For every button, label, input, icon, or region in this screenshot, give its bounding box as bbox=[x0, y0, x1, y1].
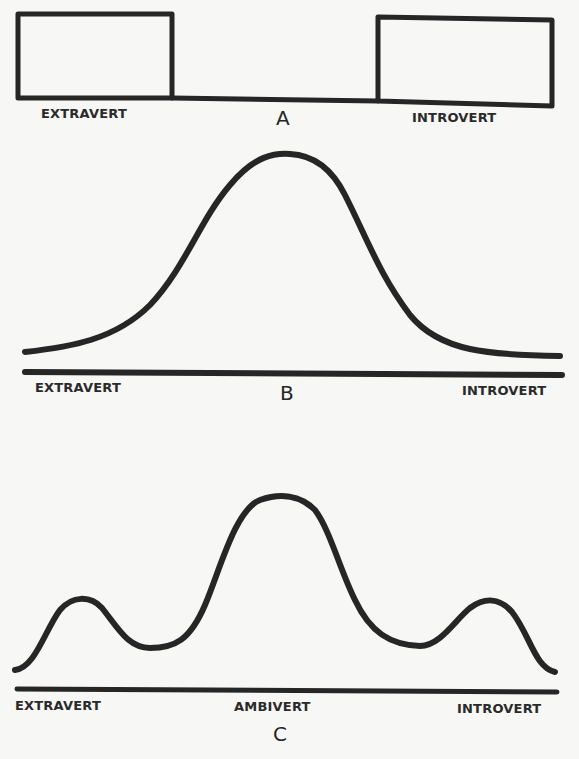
panel-b-letter: B bbox=[280, 383, 294, 403]
trimodal-curve bbox=[15, 496, 555, 672]
panel-a-introvert-label: INTROVERT bbox=[412, 111, 496, 124]
panel-c-introvert-label: INTROVERT bbox=[457, 702, 541, 715]
panel-c-ambivert-label: AMBIVERT bbox=[234, 700, 311, 713]
panel-a-graphic bbox=[18, 14, 552, 106]
introvert-block bbox=[378, 17, 552, 106]
bell-curve bbox=[25, 154, 560, 356]
panel-b-axis bbox=[25, 372, 562, 375]
panel-c-axis bbox=[17, 689, 557, 692]
extravert-block bbox=[18, 14, 172, 98]
panel-c-graphic bbox=[15, 496, 557, 692]
panel-b-introvert-label: INTROVERT bbox=[462, 384, 546, 397]
panel-b-graphic bbox=[25, 154, 562, 375]
panel-a-baseline bbox=[172, 98, 378, 101]
panel-a-extravert-label: EXTRAVERT bbox=[41, 107, 127, 120]
panel-c-letter: C bbox=[273, 724, 287, 744]
panel-c-extravert-label: EXTRAVERT bbox=[15, 699, 101, 712]
panel-b-extravert-label: EXTRAVERT bbox=[35, 381, 121, 394]
panel-a-letter: A bbox=[276, 108, 290, 128]
